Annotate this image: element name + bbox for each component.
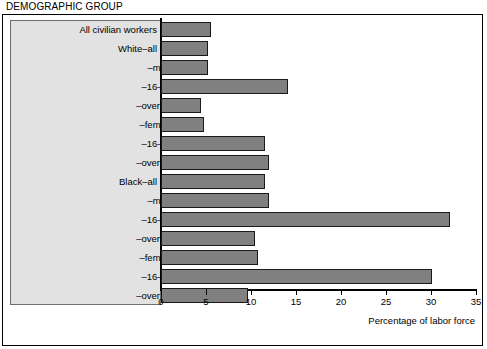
bar-row [161,115,476,135]
bar-row [161,248,476,268]
bar-row [161,77,476,97]
x-tick-label: 20 [336,296,347,307]
bar [161,269,432,284]
x-tick [161,289,162,295]
x-tick-label: 5 [203,296,208,307]
x-tick [386,289,387,295]
bar [161,250,258,265]
x-tick-label: 30 [426,296,437,307]
x-tick [296,289,297,295]
bar [161,98,201,113]
x-tick-label: 15 [291,296,302,307]
bar-row [161,191,476,211]
bar-row [161,153,476,173]
x-tick-label: 35 [471,296,482,307]
bar [161,136,265,151]
bar-row [161,96,476,116]
bar-row [161,39,476,59]
x-tick-label: 10 [246,296,257,307]
bar-row [161,229,476,249]
category-label: Black–all [119,176,157,187]
bar [161,212,450,227]
chart-figure: DEMOGRAPHIC GROUP All civilian workersWh… [0,0,487,349]
x-tick [206,289,207,295]
bar [161,174,265,189]
bar-row [161,267,476,287]
x-tick-label: 0 [158,296,163,307]
bar-row [161,134,476,154]
x-tick [431,289,432,295]
bar [161,155,269,170]
x-tick [341,289,342,295]
bar-row [161,172,476,192]
page-title: DEMOGRAPHIC GROUP [6,1,123,12]
x-tick [251,289,252,295]
bar [161,41,208,56]
bar [161,79,288,94]
bar-row [161,210,476,230]
bar-row [161,20,476,40]
bar [161,231,255,246]
x-tick-label: 25 [381,296,392,307]
category-label: All civilian workers [79,24,157,35]
bar-row [161,58,476,78]
bar [161,60,208,75]
bar [161,22,211,37]
bar [161,117,204,132]
x-tick [476,289,477,295]
x-axis-label: Percentage of labor force [368,315,475,326]
category-label: White–all [118,43,157,54]
bar [161,193,269,208]
